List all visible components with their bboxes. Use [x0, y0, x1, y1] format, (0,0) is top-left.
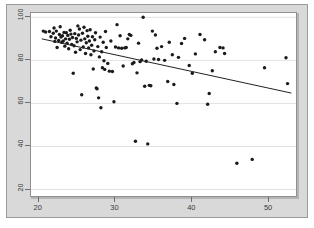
data-point	[78, 27, 81, 30]
data-point	[221, 46, 224, 49]
data-point	[108, 69, 111, 72]
data-point	[188, 64, 191, 67]
data-point	[52, 32, 55, 35]
data-point	[104, 30, 107, 33]
data-point	[175, 102, 178, 105]
data-point	[85, 29, 88, 32]
y-tick-label: 60	[17, 93, 24, 109]
x-tick-mark	[268, 197, 269, 202]
data-point	[66, 34, 69, 37]
data-point	[211, 69, 214, 72]
data-point	[102, 41, 105, 44]
data-point	[97, 96, 100, 99]
data-point	[55, 29, 58, 32]
data-point	[76, 24, 79, 27]
x-tick-label: 30	[103, 203, 125, 212]
y-tick-label: 40	[17, 136, 24, 152]
data-point	[69, 32, 72, 35]
data-point	[106, 62, 109, 65]
data-point	[75, 40, 78, 43]
data-point	[177, 56, 180, 59]
scatter-plot-figure: 20406080100 20304050	[0, 0, 314, 228]
data-point	[82, 26, 85, 29]
x-tick-label: 40	[180, 203, 202, 212]
data-point	[58, 25, 61, 28]
y-tick-label: 100	[17, 7, 24, 23]
data-point	[155, 47, 158, 50]
data-point	[115, 23, 118, 26]
data-point	[98, 35, 101, 38]
data-point	[286, 82, 289, 85]
data-point	[54, 36, 57, 39]
x-tick-mark	[114, 197, 115, 202]
data-point	[112, 100, 115, 103]
data-point	[218, 46, 221, 49]
data-point	[125, 46, 128, 49]
data-point	[88, 39, 91, 42]
data-point	[84, 52, 87, 55]
data-point	[68, 29, 71, 32]
data-point	[92, 67, 95, 70]
data-point	[75, 37, 78, 40]
data-point	[80, 93, 83, 96]
data-point	[83, 37, 86, 40]
data-point	[74, 50, 77, 53]
data-point	[103, 68, 106, 71]
x-tick-label: 20	[27, 203, 49, 212]
data-point	[152, 57, 155, 60]
data-point	[120, 47, 123, 50]
x-tick-mark	[191, 197, 192, 202]
data-point	[166, 80, 169, 83]
y-tick-mark	[25, 59, 30, 60]
data-point	[105, 46, 108, 49]
data-point	[157, 58, 160, 61]
data-point	[251, 158, 254, 161]
data-point	[72, 72, 75, 75]
data-point	[151, 29, 154, 32]
y-tick-label: 20	[17, 179, 24, 195]
data-point	[183, 37, 186, 40]
data-point	[149, 84, 152, 87]
data-point	[223, 52, 226, 55]
data-point	[129, 34, 132, 37]
data-point	[96, 45, 99, 48]
data-point	[134, 140, 137, 143]
data-point	[114, 45, 117, 48]
data-point	[61, 34, 64, 37]
y-tick-mark	[25, 16, 30, 17]
data-point	[263, 66, 266, 69]
data-point	[235, 162, 238, 165]
data-point	[67, 47, 70, 50]
data-point	[117, 46, 120, 49]
data-point	[284, 56, 287, 59]
data-points-group	[42, 16, 290, 165]
data-point	[198, 33, 201, 36]
data-point	[90, 44, 93, 47]
data-point	[78, 48, 81, 51]
data-point	[81, 32, 84, 35]
data-point	[94, 31, 97, 34]
data-point	[132, 61, 135, 64]
data-point	[79, 38, 82, 41]
data-point	[168, 41, 171, 44]
plot-canvas	[31, 13, 296, 196]
data-point	[95, 87, 98, 90]
data-point	[141, 16, 144, 19]
data-point	[203, 38, 206, 41]
data-point	[85, 41, 88, 44]
y-tick-mark	[25, 189, 30, 190]
data-point	[98, 55, 101, 58]
data-point	[172, 83, 175, 86]
data-point	[68, 38, 71, 41]
data-point	[71, 36, 74, 39]
data-point	[111, 70, 114, 73]
data-point	[121, 64, 124, 67]
data-point	[52, 26, 55, 29]
data-point	[88, 28, 91, 31]
data-point	[86, 35, 89, 38]
x-tick-label: 50	[257, 203, 279, 212]
data-point	[171, 53, 174, 56]
data-point	[180, 42, 183, 45]
data-point	[143, 85, 146, 88]
data-point	[126, 37, 129, 40]
